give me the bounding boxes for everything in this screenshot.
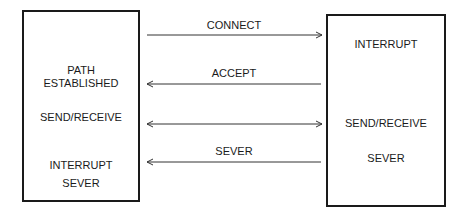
message-arrows <box>0 0 466 217</box>
